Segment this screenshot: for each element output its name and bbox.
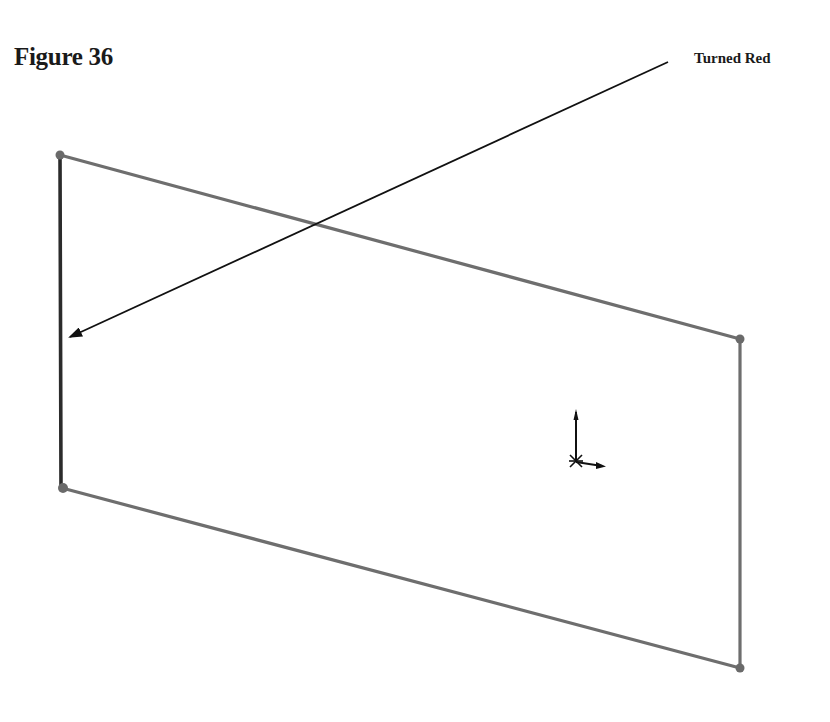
sketch-canvas[interactable] — [0, 0, 830, 722]
sketch-edge-bottom[interactable] — [62, 488, 740, 668]
sketch-edge-left-selected[interactable] — [60, 155, 61, 488]
sketch-edge-top[interactable] — [60, 155, 740, 339]
vertex-top-left[interactable] — [56, 151, 65, 160]
vertex-bottom-left[interactable] — [58, 483, 68, 493]
vertex-top-right[interactable] — [736, 335, 745, 344]
vertex-bottom-right[interactable] — [736, 664, 745, 673]
sketch-origin-icon — [569, 409, 606, 469]
